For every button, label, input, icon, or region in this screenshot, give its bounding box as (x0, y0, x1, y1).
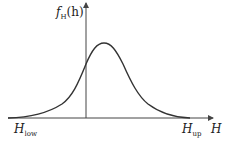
upper-bound-label: Hup (182, 122, 201, 138)
y-axis-label: fH(h) (56, 5, 84, 21)
x-axis-label: H (211, 122, 221, 136)
lower-bound-label: Hlow (14, 122, 37, 138)
density-curve (8, 43, 190, 118)
